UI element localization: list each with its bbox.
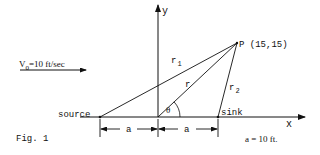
source-sink-diagram: x y V0=10 ft/sec P (15,15) r1 r r2 θ sou… bbox=[0, 0, 320, 155]
a-value-label: a = 10 ft. bbox=[245, 134, 278, 144]
y-axis-label: y bbox=[162, 6, 168, 17]
r2-label: r2 bbox=[229, 83, 240, 95]
ray-r2 bbox=[218, 43, 237, 117]
theta-label: θ bbox=[166, 105, 170, 115]
theta-arc bbox=[174, 102, 180, 117]
sink-label: sink bbox=[221, 108, 243, 118]
source-point bbox=[99, 116, 102, 119]
point-p bbox=[236, 42, 238, 44]
point-p-label: P (15,15) bbox=[239, 40, 288, 50]
dim-left-label: a bbox=[126, 125, 132, 135]
x-axis-label: x bbox=[286, 119, 292, 130]
source-label: source bbox=[58, 110, 90, 120]
sink-point bbox=[217, 116, 220, 119]
r1-label: r1 bbox=[171, 56, 182, 68]
r-label: r bbox=[185, 80, 190, 90]
figure-caption: Fig. 1 bbox=[16, 134, 48, 144]
dim-right-label: a bbox=[184, 125, 190, 135]
